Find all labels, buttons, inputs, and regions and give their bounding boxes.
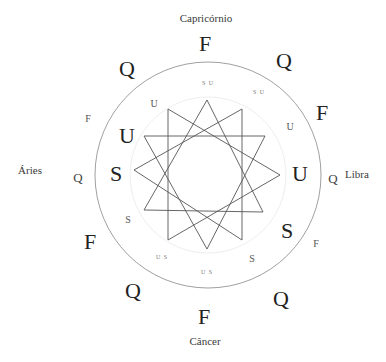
inner-ring-label: U — [292, 163, 308, 185]
inner-ring-label: S U — [202, 80, 214, 86]
zodiac-circle — [95, 62, 321, 288]
star-edge — [134, 170, 242, 240]
outer-ring-label: F — [85, 114, 91, 124]
outer-ring-label: F — [199, 33, 211, 55]
outer-ring-label: F — [316, 102, 328, 124]
star-edge — [144, 136, 207, 249]
inner-ring-label: S — [125, 215, 131, 225]
star-edge — [207, 136, 265, 249]
sign-label-right: Libra — [345, 169, 369, 180]
outer-ring-label: F — [84, 231, 96, 253]
inner-ring-label: S — [249, 254, 255, 264]
inner-ring-label: U — [150, 99, 157, 109]
inner-ring-label: S — [110, 163, 122, 185]
outer-ring-label: F — [198, 306, 210, 328]
inner-ring-label: S U — [253, 89, 265, 95]
outer-ring-label: F — [313, 239, 319, 249]
sign-label-top: Capricórnio — [180, 13, 233, 24]
outer-ring-label: Q — [273, 288, 289, 310]
inner-guide-circle — [130, 97, 286, 253]
sign-label-left: Áries — [18, 165, 42, 176]
astrology-diagram: Capricórnio Libra Câncer Áries FQFQFQFQF… — [0, 0, 386, 362]
star-edge — [144, 210, 263, 212]
outer-ring-label: Q — [328, 172, 337, 185]
outer-ring-label: Q — [73, 171, 82, 184]
inner-ring-label: S — [281, 220, 293, 242]
star-edge — [134, 109, 242, 170]
twelve-point-star — [134, 100, 280, 249]
outer-ring-label: Q — [125, 280, 141, 302]
inner-ring-label: U — [286, 122, 293, 132]
inner-ring-label: U S — [156, 254, 168, 260]
outer-ring-label: Q — [119, 58, 135, 80]
inner-ring-label: U S — [201, 269, 213, 275]
outer-ring-label: Q — [276, 50, 292, 72]
star-edge — [144, 100, 207, 210]
inner-ring-label: U — [119, 125, 135, 147]
sign-label-bottom: Câncer — [189, 336, 220, 347]
